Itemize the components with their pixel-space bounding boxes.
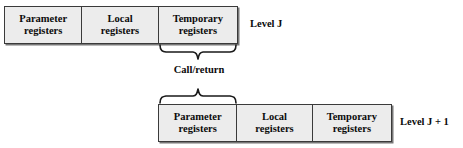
- register-cell-local-level-j: Local registers: [82, 7, 158, 43]
- register-cell-line1: Local: [262, 111, 287, 123]
- register-cell-line2: registers: [179, 25, 217, 37]
- register-cell-line2: registers: [333, 123, 371, 135]
- register-cell-parameter-level-j: Parameter registers: [5, 7, 82, 43]
- curly-brace-top-icon: [158, 44, 238, 60]
- register-cell-line2: registers: [101, 25, 139, 37]
- register-cell-line2: registers: [179, 123, 217, 135]
- register-cell-line2: registers: [255, 123, 293, 135]
- register-window-level-j: Parameter registers Local registers Temp…: [4, 6, 238, 44]
- level-label-j: Level J: [250, 18, 282, 29]
- register-cell-temporary-level-j: Temporary registers: [159, 7, 237, 43]
- register-cell-line1: Temporary: [173, 13, 223, 25]
- call-return-label: Call/return: [160, 64, 238, 75]
- register-window-diagram: Parameter registers Local registers Temp…: [0, 0, 463, 148]
- register-cell-parameter-level-j-plus-1: Parameter registers: [159, 105, 237, 141]
- register-cell-line2: registers: [24, 25, 62, 37]
- level-label-j-plus-1: Level J + 1: [400, 116, 449, 127]
- curly-brace-bottom-icon: [158, 88, 238, 104]
- register-cell-line1: Parameter: [174, 111, 222, 123]
- register-cell-temporary-level-j-plus-1: Temporary registers: [313, 105, 391, 141]
- register-cell-line1: Local: [107, 13, 132, 25]
- register-window-level-j-plus-1: Parameter registers Local registers Temp…: [158, 104, 392, 142]
- register-cell-line1: Temporary: [327, 111, 377, 123]
- register-cell-local-level-j-plus-1: Local registers: [237, 105, 312, 141]
- register-cell-line1: Parameter: [19, 13, 67, 25]
